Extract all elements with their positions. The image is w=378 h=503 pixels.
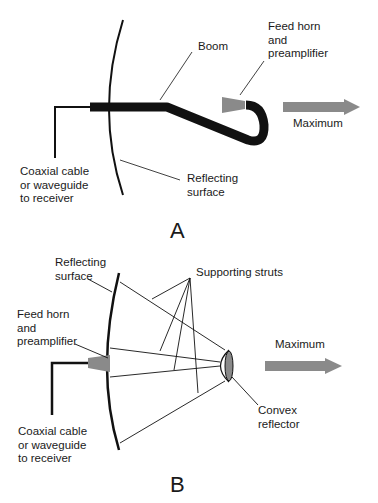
convex-reflector [225, 351, 233, 381]
label-reflecting-b: Reflecting surface [55, 256, 106, 283]
maximum-arrow-a [283, 99, 360, 115]
label-struts: Supporting struts [196, 266, 283, 280]
diagram-letter-a: A [170, 218, 185, 244]
label-maximum-a: Maximum [293, 117, 343, 131]
label-coax-a: Coaxial cable or waveguide to receiver [20, 165, 89, 206]
boom-a [90, 105, 264, 141]
label-reflecting-a: Reflecting surface [187, 172, 238, 199]
coax-cable-b [52, 363, 88, 415]
label-boom: Boom [198, 40, 228, 54]
label-coax-b: Coaxial cable or waveguide to receiver [18, 425, 87, 466]
coax-cable-a [55, 107, 90, 158]
feed-horn-a [222, 97, 245, 113]
label-feed-horn-b: Feed horn and preamplifier [17, 308, 77, 349]
diagram-letter-b: B [170, 472, 185, 498]
label-convex: Convex reflector [258, 404, 300, 431]
label-feed-horn-a: Feed horn and preamplifier [268, 20, 328, 61]
label-maximum-b: Maximum [275, 338, 325, 352]
maximum-arrow-b [265, 358, 342, 374]
